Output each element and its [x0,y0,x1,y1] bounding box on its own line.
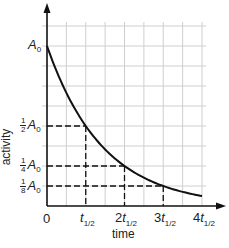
x-label-2t-half: 2t1/2 [115,211,137,228]
x-axis-title: time [112,227,135,241]
y-label-a0: A0 [28,38,41,54]
y-label-eighth-a0: 18A0 [20,178,41,195]
x-label-t-half: t1/2 [80,211,95,228]
y-label-half-a0: 12A0 [20,117,41,134]
x-label-3t-half: 3t1/2 [154,211,176,228]
x-label-0: 0 [43,212,50,225]
fraction-half: 12 [20,117,26,134]
y-label-quarter-a0: 14A0 [20,157,41,174]
fraction-eighth: 18 [20,178,26,195]
fraction-quarter: 14 [20,157,26,174]
y-axis-arrow-icon [44,3,51,13]
y-axis-title: activity [0,129,13,166]
x-label-4t-half: 4t1/2 [193,211,215,228]
x-axis-arrow-icon [216,203,226,210]
